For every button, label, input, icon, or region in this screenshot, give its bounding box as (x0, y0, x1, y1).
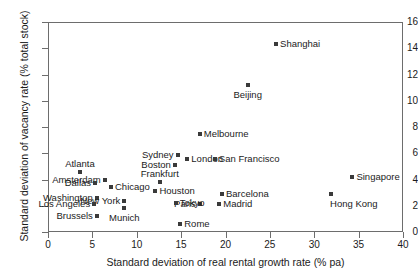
x-axis-tick-label: 25 (255, 240, 285, 250)
y-axis-tick-label: 12 (384, 70, 418, 80)
data-point (174, 201, 178, 205)
y-axis-tick-label: 6 (384, 148, 418, 158)
y-axis-tick (42, 127, 48, 128)
x-axis-tick-label: 15 (166, 240, 196, 250)
data-point (103, 178, 107, 182)
data-point (93, 181, 97, 185)
data-point-label: Atlanta (65, 158, 95, 168)
y-axis-tick (42, 75, 48, 76)
data-point (122, 199, 126, 203)
x-axis-tick-label: 35 (344, 240, 374, 250)
data-point (153, 189, 157, 193)
data-point-label: Brussels (56, 212, 92, 222)
data-point-label: Shanghai (280, 40, 320, 50)
y-axis-tick-label: 2 (384, 201, 418, 211)
x-axis-title: Standard deviation of real rental growth… (48, 256, 403, 268)
x-axis-tick (181, 232, 182, 238)
x-axis-tick-label: 0 (33, 240, 63, 250)
y-axis-title: Standard deviation of vacancy rate (% to… (18, 6, 30, 246)
y-axis-tick-label: 16 (384, 17, 418, 27)
data-point (217, 202, 221, 206)
data-point (158, 180, 162, 184)
data-point-label: Beijing (233, 90, 262, 100)
data-point-label: Madrid (223, 200, 252, 210)
scatter-chart: 0246810121416 0510152025303540 ShanghaiB… (0, 0, 418, 277)
x-axis-tick (403, 232, 404, 238)
data-point-label: Hong Kong (330, 199, 378, 209)
x-axis-tick (137, 232, 138, 238)
data-point-label: Tokyo (180, 198, 205, 208)
data-point-label: Munich (109, 213, 140, 223)
data-point (95, 214, 99, 218)
y-axis-tick-label: 10 (384, 96, 418, 106)
data-point (173, 163, 177, 167)
data-point-label: Sydney (142, 150, 174, 160)
x-axis-tick-label: 20 (211, 240, 241, 250)
data-point (198, 132, 202, 136)
data-point (185, 157, 189, 161)
x-axis-tick (92, 232, 93, 238)
data-point-label: Frankfurt (141, 169, 179, 179)
data-point (122, 206, 126, 210)
y-axis-tick-label: 0 (384, 227, 418, 237)
data-point-label: Dallas (65, 179, 91, 189)
y-axis-tick (42, 22, 48, 23)
x-axis-tick-label: 10 (122, 240, 152, 250)
data-point (109, 185, 113, 189)
data-point-label: Rome (184, 219, 209, 229)
data-point-label: Barcelona (226, 189, 269, 199)
x-axis-tick (226, 232, 227, 238)
data-point (176, 153, 180, 157)
x-axis-tick-label: 5 (77, 240, 107, 250)
x-axis-tick (270, 232, 271, 238)
x-axis-tick-label: 30 (299, 240, 329, 250)
x-axis-tick-label: 40 (388, 240, 418, 250)
x-axis-tick (359, 232, 360, 238)
data-point-label: San Francisco (219, 154, 280, 164)
data-point (178, 222, 182, 226)
data-point (246, 83, 250, 87)
x-axis-tick (314, 232, 315, 238)
x-axis-tick (48, 232, 49, 238)
data-point (220, 192, 224, 196)
data-point-label: Los Angeles (38, 200, 90, 210)
data-point (329, 192, 333, 196)
y-axis-tick (42, 180, 48, 181)
y-axis-tick (42, 48, 48, 49)
data-point-label: Melbourne (204, 129, 249, 139)
data-point (92, 202, 96, 206)
y-axis-tick (42, 101, 48, 102)
data-point-label: Houston (159, 187, 194, 197)
y-axis-tick-label: 14 (384, 43, 418, 53)
y-axis-tick (42, 153, 48, 154)
data-point-label: Singapore (356, 172, 399, 182)
data-point-label: Chicago (115, 183, 150, 193)
data-point (274, 42, 278, 46)
data-point (350, 175, 354, 179)
y-axis-tick-label: 8 (384, 122, 418, 132)
data-point (213, 157, 217, 161)
